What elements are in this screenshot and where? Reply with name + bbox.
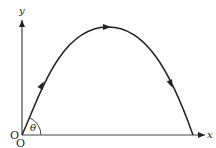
x-axis-label: x bbox=[207, 129, 213, 140]
origin-label-below: O bbox=[16, 137, 25, 148]
projectile-diagram: y x O O θ bbox=[0, 0, 216, 148]
trajectory-curve bbox=[22, 27, 193, 135]
y-axis-label: y bbox=[18, 5, 25, 16]
arrow-apex-icon bbox=[103, 24, 111, 30]
angle-theta-label: θ bbox=[30, 122, 36, 133]
